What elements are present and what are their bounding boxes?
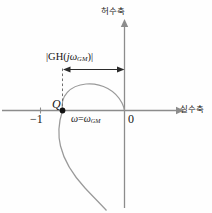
magnitude-omega: ω [70,51,77,62]
omega-right: ω [84,113,91,124]
origin-tick-label: 0 [128,113,134,125]
magnitude-prefix: |GH( [46,51,67,62]
nyquist-plot-figure: 허수축 실수축 |GH(jωGM)| Q −1 0 ω=ωGM [0,0,212,213]
minus-one-tick-label: −1 [30,113,43,125]
nyquist-upper-arc [62,84,124,111]
gain-margin-magnitude-label: |GH(jωGM)| [46,52,93,63]
crossover-point-label: Q [52,98,61,110]
real-axis-label: 실수축 [180,105,205,114]
magnitude-subscript: GM [77,55,87,62]
imaginary-axis-arrowhead [121,19,128,27]
imaginary-axis-label: 허수축 [101,7,126,16]
magnitude-suffix: )| [87,51,93,62]
gain-margin-measure-arrow [63,66,125,72]
gain-margin-arrowhead-left [63,66,71,72]
omega-subscript: GM [91,117,101,124]
omega-left: ω [71,113,78,124]
crossover-frequency-label: ω=ωGM [71,114,101,125]
nyquist-lower-branch [59,111,107,211]
gain-margin-arrowhead-right [117,66,125,72]
